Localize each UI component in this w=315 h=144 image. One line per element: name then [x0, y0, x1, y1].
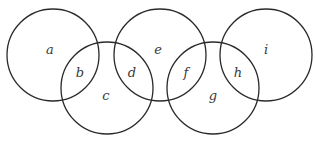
region-label-d: d [128, 65, 136, 80]
region-label-h: h [234, 65, 242, 80]
region-label-f: f [183, 65, 191, 80]
region-label-c: c [102, 88, 110, 103]
venn-chain-diagram: a b c d e f g h i [0, 0, 315, 144]
region-label-b: b [76, 65, 84, 80]
region-label-i: i [264, 42, 268, 57]
region-label-a: a [46, 42, 54, 57]
region-label-e: e [154, 42, 162, 57]
region-label-g: g [209, 88, 217, 103]
